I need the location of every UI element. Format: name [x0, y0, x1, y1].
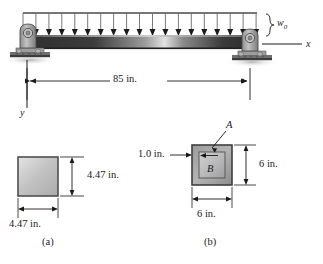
distributed-load-arrowheads: [20, 29, 259, 36]
section-b-label-a: A: [226, 120, 232, 131]
distributed-load-arrows: [23, 13, 256, 30]
span-dimension-label: 85 in.: [113, 74, 137, 85]
section-b-thickness-label: 1.0 in.: [138, 149, 165, 160]
span-dimension: [27, 68, 250, 100]
beam-body: [24, 36, 258, 48]
section-b-height-dimension: [234, 145, 256, 185]
section-b-height-label: 6 in.: [259, 159, 278, 170]
section-a-width-label: 4.47 in.: [9, 219, 41, 230]
section-b-caption: (b): [204, 237, 216, 248]
section-b-label-b: B: [207, 164, 213, 175]
section-a-caption: (a): [42, 237, 54, 248]
figure-container: w0 x y 85 in. 4.47 in. 4.47 in. (a) A B …: [0, 0, 323, 264]
section-b-width-label: 6 in.: [197, 209, 216, 220]
load-magnitude-label: w0: [277, 18, 287, 31]
section-b-width-dimension: [192, 187, 232, 208]
y-axis-label: y: [20, 108, 24, 118]
x-axis-label: x: [306, 39, 310, 49]
load-magnitude-brace: [266, 14, 274, 36]
section-a-height-label: 4.47 in.: [87, 170, 119, 181]
beam-bottom-edge: [24, 48, 258, 50]
engineering-diagram: [0, 0, 323, 264]
section-a-square: [18, 157, 58, 196]
section-a-group: [18, 157, 84, 218]
load-magnitude-subscript: 0: [284, 23, 288, 31]
section-a-height-dimension: [60, 157, 84, 196]
beam-top-edge: [24, 35, 258, 37]
section-a-width-dimension: [18, 198, 58, 218]
beam-assembly: [4, 13, 302, 108]
